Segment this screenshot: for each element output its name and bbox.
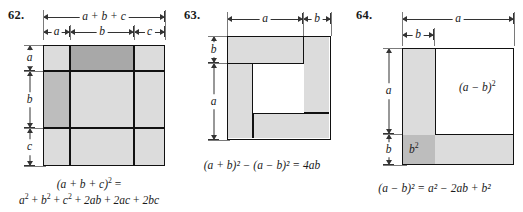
problem-62-ruler-total-label: a + b + c [80,11,129,23]
problem-63-figure [227,36,331,140]
cell-c-a [43,128,70,166]
problem-63-ruler-left-b: b [213,36,214,63]
problem-64-panel: 64. a b a b [346,0,523,212]
problem-64-corner-label: b2 [409,141,419,155]
problem-64-ruler-b-label: b [413,29,424,41]
region-bottom-strip [253,113,329,138]
cell-a-b [70,45,134,71]
region-left-strip [228,64,253,138]
problem-62-ruler-b-label: b [97,26,108,38]
problem-63-ruler-left-b-label: b [211,42,217,58]
region-top-strip [228,37,304,64]
term: 2bc [142,194,159,206]
problem-63-ruler-b-label: b [312,13,323,25]
witness-line [24,166,46,167]
problem-64-number: 64. [356,8,372,23]
problem-63-ruler-b: b [303,18,331,19]
problem-62-number: 62. [8,8,24,23]
operator: + [29,194,41,206]
problem-62-ruler-left-c: c [29,128,30,166]
cell-b-a [43,71,70,128]
inner-label-base: (a − b) [459,81,492,93]
corner-label-exponent: 2 [415,141,419,150]
problem-64-caption: (a − b)² = a² − 2ab + b² [346,181,523,197]
witness-line [303,12,304,36]
problem-63-number: 63. [184,8,200,23]
problem-62-ruler-left-a: a [29,45,30,71]
witness-line [331,12,332,36]
problem-64-ruler-b: b [402,34,434,35]
cell-b-b [70,71,134,128]
problem-62-ruler-c-label: c [144,26,154,38]
operator: + [101,194,113,206]
cell-a-c [134,45,165,71]
problem-62-ruler-c: c [134,31,165,32]
problem-62-ruler-left-c-label: c [27,139,32,155]
problem-62-figure [43,45,165,166]
cell-c-b [70,128,134,166]
witness-line [134,25,135,40]
term: 2ab [84,194,101,206]
problem-64-ruler-left-b-label: b [386,142,392,158]
problem-62-ruler-a: a [43,31,70,32]
problem-62-ruler-left-b: b [29,71,30,128]
witness-line [434,28,435,46]
term: 2ac [114,194,131,206]
problem-64-ruler-a-label: a [453,13,464,25]
cell-b-c [134,71,165,128]
caption-62-lhs: (a + b + c) [57,178,108,190]
problem-64-ruler-left-a: a [388,48,389,134]
problem-62-ruler-left-a-label: a [27,50,33,66]
witness-line [383,165,407,166]
operator: + [72,194,84,206]
problem-62-ruler-a-label: a [51,26,62,38]
region-corner-b2 [403,135,435,164]
witness-line [227,12,228,36]
problem-64-ruler-left-b: b [388,134,389,165]
operator: + [51,194,63,206]
cell-c-c [134,128,165,166]
problem-64-inner-label: (a − b)2 [459,79,496,93]
witness-line [43,10,44,40]
cell-a-a [43,45,70,71]
caption-62-equals: = [112,178,121,190]
problem-64-figure: (a − b)2 b2 [402,48,514,165]
problem-63-caption: (a + b)² − (a − b)² = 4ab [178,158,346,174]
problem-64-ruler-a: a [402,18,514,19]
witness-line [514,12,515,46]
problem-63-ruler-left-a-label: a [211,94,217,110]
region-center-hole [254,65,303,112]
problem-63-ruler-a-label: a [260,13,271,25]
problem-64-ruler-left-a-label: a [386,83,392,99]
problem-63-panel: 63. a b b a [178,0,346,212]
witness-line [70,25,71,40]
problem-62-caption-line1: (a + b + c)2 = [0,176,178,192]
witness-line [402,12,403,46]
region-right-strip [304,37,329,113]
problem-62-ruler-b: b [70,31,134,32]
worksheet-page: 62. a + b + c a b c [0,0,523,212]
witness-line [165,10,166,40]
inner-label-exponent: 2 [492,79,496,88]
witness-line [208,140,230,141]
problem-62-caption-line2: a2 + b2 + c2 + 2ab + 2ac + 2bc [0,192,178,208]
problem-62-panel: 62. a + b + c a b c [0,0,178,212]
problem-63-ruler-left-a: a [213,63,214,140]
problem-62-ruler-left-b-label: b [27,92,33,108]
operator: + [130,194,142,206]
problem-62-ruler-total: a + b + c [43,16,165,17]
problem-63-ruler-a: a [227,18,303,19]
